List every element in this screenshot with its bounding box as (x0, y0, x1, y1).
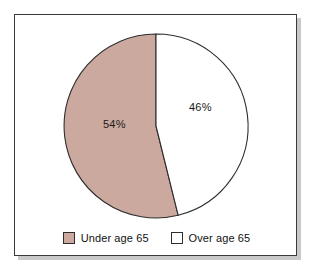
legend-swatch-over-age-65 (171, 232, 183, 244)
legend-item-under-age-65[interactable]: Under age 65 (63, 232, 149, 244)
legend-item-over-age-65[interactable]: Over age 65 (171, 232, 251, 244)
pie-label-under-age-65: 54% (103, 118, 126, 130)
pie-chart: 54% 46% (15, 15, 298, 220)
pie-svg (15, 15, 298, 220)
legend-label-over-age-65: Over age 65 (189, 232, 251, 244)
chart-frame: 54% 46% Under age 65 Over age 65 (14, 14, 297, 256)
legend-label-under-age-65: Under age 65 (81, 232, 149, 244)
chart-legend: Under age 65 Over age 65 (15, 221, 298, 255)
pie-label-over-age-65: 46% (189, 101, 212, 113)
legend-swatch-under-age-65 (63, 232, 75, 244)
